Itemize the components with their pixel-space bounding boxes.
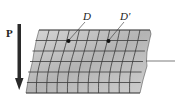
point-D-prime-label: D' xyxy=(119,10,131,22)
arrow-head-icon xyxy=(15,78,24,90)
point-D-marker xyxy=(67,39,71,43)
point-D-prime-marker xyxy=(107,39,111,43)
force-arrow xyxy=(15,24,24,90)
deformed-block xyxy=(26,30,151,93)
arrow-shaft xyxy=(18,24,22,80)
force-label: P xyxy=(6,27,13,39)
shear-diagram: P D D' xyxy=(0,0,180,102)
point-D-label: D xyxy=(82,10,91,22)
